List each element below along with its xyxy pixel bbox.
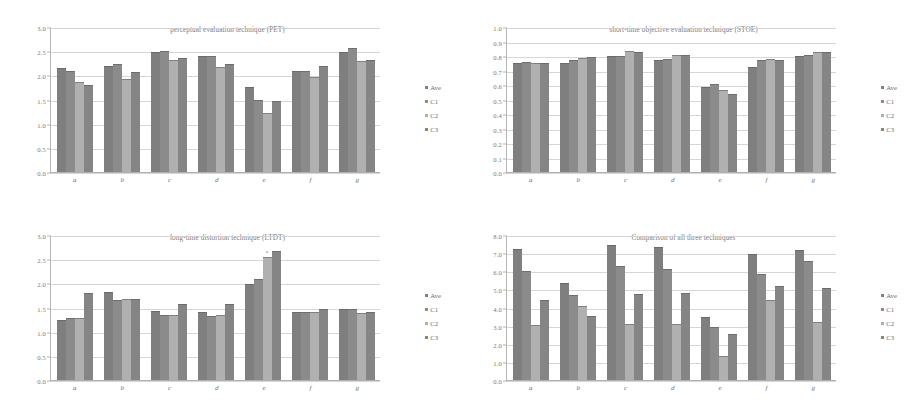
bar-group-e <box>701 236 737 380</box>
gridline <box>506 173 836 174</box>
bar <box>57 68 66 172</box>
bar <box>254 279 263 380</box>
x-axis-labels: abcdefg <box>507 176 837 184</box>
legend-item-c3[interactable]: C3 <box>881 126 897 133</box>
bar <box>254 100 263 172</box>
bar <box>625 324 634 380</box>
legend-item-c2[interactable]: C2 <box>881 320 897 327</box>
legend-item-c1[interactable]: C1 <box>881 306 897 313</box>
chart-legend: AveC1C2C3 <box>425 84 441 133</box>
x-axis-line <box>50 380 380 381</box>
x-axis-tick-label: g <box>355 384 359 392</box>
bar <box>578 58 587 172</box>
bar-group-g <box>339 28 375 172</box>
x-axis-line <box>506 172 836 173</box>
bar-group-e <box>701 28 737 172</box>
y-axis-tick-label: 3.0 <box>37 25 46 32</box>
bar <box>160 51 169 172</box>
chart-legend: AveC1C2C3 <box>881 292 897 341</box>
bar <box>540 300 549 380</box>
y-axis-tick-label: 4.0 <box>493 305 502 312</box>
bar <box>728 334 737 380</box>
x-axis-tick-label: f <box>310 176 312 184</box>
bar <box>663 269 672 380</box>
legend-item-c1[interactable]: C1 <box>425 306 441 313</box>
chart-panel-pet: perceptual evaluation technique (PET)0.0… <box>0 0 455 208</box>
bar-group-c <box>607 236 643 380</box>
bar-group-g <box>795 236 831 380</box>
bar <box>319 66 328 172</box>
bar <box>366 312 375 380</box>
bar-group-b <box>560 28 596 172</box>
legend-label: C3 <box>886 126 894 133</box>
bar <box>795 250 804 380</box>
bar <box>513 249 522 380</box>
bar-groups: * <box>51 236 380 380</box>
bar <box>207 316 216 380</box>
legend-item-c3[interactable]: C3 <box>881 334 897 341</box>
x-axis-tick-label: f <box>310 384 312 392</box>
x-axis-tick-label: b <box>576 176 580 184</box>
bar <box>672 324 681 380</box>
bar <box>75 318 84 380</box>
y-axis-tick-label: 0.5 <box>493 97 502 104</box>
legend-item-c2[interactable]: C2 <box>425 320 441 327</box>
bar <box>310 312 319 380</box>
bar <box>634 52 643 172</box>
legend-label: C1 <box>886 306 894 313</box>
y-axis-tick-label: 0.2 <box>493 141 502 148</box>
x-axis-tick-label: d <box>671 176 675 184</box>
legend-item-ave[interactable]: Ave <box>425 292 441 299</box>
x-axis-tick-label: g <box>811 384 815 392</box>
legend-swatch-icon <box>881 294 885 298</box>
bar <box>84 293 93 380</box>
legend-item-c1[interactable]: C1 <box>425 98 441 105</box>
bar <box>766 59 775 172</box>
bar <box>757 274 766 380</box>
bar-group-d <box>198 28 234 172</box>
y-axis-tick-label: 0.0 <box>493 170 502 177</box>
bar <box>616 266 625 380</box>
bar <box>245 87 254 172</box>
legend-swatch-icon <box>881 308 885 312</box>
x-axis-tick-label: b <box>120 176 124 184</box>
bar <box>113 64 122 172</box>
legend-item-c2[interactable]: C2 <box>425 112 441 119</box>
chart-0: perceptual evaluation technique (PET)0.0… <box>0 0 455 208</box>
bar <box>578 306 587 380</box>
legend-item-ave[interactable]: Ave <box>881 292 897 299</box>
x-axis-tick-label: c <box>168 176 171 184</box>
y-axis-tick-label: 0.9 <box>493 39 502 46</box>
bar <box>540 63 549 172</box>
bar <box>310 77 319 172</box>
legend-item-c2[interactable]: C2 <box>881 112 897 119</box>
y-axis-tick-label: 1.5 <box>37 305 46 312</box>
bar <box>272 251 281 380</box>
bar-group-b <box>104 236 140 380</box>
bar-group-d <box>654 236 690 380</box>
bar <box>710 84 719 172</box>
legend-label: C2 <box>430 112 438 119</box>
bar <box>513 63 522 172</box>
legend-item-c1[interactable]: C1 <box>881 98 897 105</box>
legend-label: C3 <box>430 126 438 133</box>
x-axis-tick-label: d <box>215 176 219 184</box>
bar <box>531 325 540 380</box>
y-axis-tick-label: 0.6 <box>493 83 502 90</box>
bar <box>681 293 690 380</box>
legend-label: C3 <box>886 334 894 341</box>
legend-swatch-icon <box>881 100 885 104</box>
x-axis-tick-label: a <box>73 176 77 184</box>
bar <box>531 63 540 172</box>
bar <box>292 71 301 172</box>
legend-item-c3[interactable]: C3 <box>425 126 441 133</box>
bar <box>775 286 784 380</box>
y-axis-tick-label: 1.5 <box>37 97 46 104</box>
bar <box>822 288 831 380</box>
bar <box>178 58 187 172</box>
legend-item-c3[interactable]: C3 <box>425 334 441 341</box>
bar <box>169 60 178 172</box>
bar <box>113 300 122 380</box>
legend-item-ave[interactable]: Ave <box>881 84 897 91</box>
legend-item-ave[interactable]: Ave <box>425 84 441 91</box>
